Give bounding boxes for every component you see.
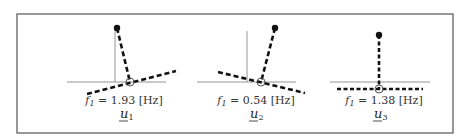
mode-panel-2: f1 = 0.54 [Hz] u2 (197, 25, 305, 122)
figure-frame (17, 14, 453, 133)
deformed-column (117, 28, 130, 82)
mode-shapes-figure: f1 = 1.93 [Hz] u1 f1 = 0.54 [Hz] u2 f1 =… (0, 0, 470, 140)
deformed-column (261, 28, 275, 82)
top-mass-dot (376, 32, 382, 38)
frequency-caption: f1 = 1.38 [Hz] (344, 94, 422, 108)
mode-panel-1: f1 = 1.93 [Hz] u1 (67, 25, 176, 122)
mode-panel-3: f1 = 1.38 [Hz] u3 (330, 32, 430, 122)
top-mass-dot (272, 25, 278, 31)
mode-label: u3 (374, 106, 387, 122)
deformed-beam (87, 71, 176, 94)
top-mass-dot (114, 25, 120, 31)
mode-label: u2 (250, 106, 263, 122)
mode-label: u1 (120, 106, 133, 122)
